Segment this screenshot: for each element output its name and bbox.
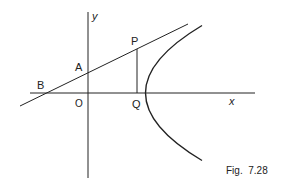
figure-7-28: y x P A B O Q Fig. 7.28 <box>0 0 294 186</box>
point-q-label: Q <box>132 99 141 110</box>
figure-caption: Fig. 7.28 <box>226 166 268 176</box>
tangent-line <box>20 24 188 106</box>
point-a-label: A <box>75 62 82 73</box>
point-p-label: P <box>131 36 138 47</box>
diagram-canvas <box>0 0 294 186</box>
point-o-label: O <box>75 99 83 109</box>
point-b-label: B <box>37 80 44 91</box>
x-axis-label: x <box>229 96 235 107</box>
y-axis-label: y <box>92 11 98 22</box>
